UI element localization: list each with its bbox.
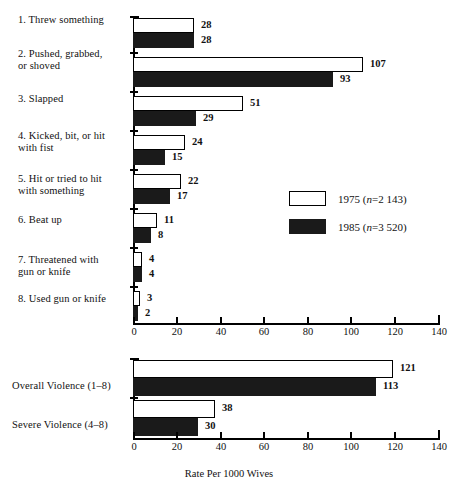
chart-panel-summary-indices: Overall Violence (1–8) Severe Violence (… [0, 352, 458, 493]
legend-label-1985: 1985 (n=3 520) [338, 221, 407, 233]
x-tick-0-bottom [133, 432, 135, 440]
x-tick-label-120-bottom: 120 [387, 441, 403, 452]
legend: 1975 (n=2 143) 1985 (n=3 520) [0, 0, 458, 345]
bar-value-1975-overall: 121 [400, 362, 416, 373]
x-tick-60-bottom [263, 432, 265, 438]
x-tick-80-bottom [307, 432, 309, 438]
x-tick-label-100-bottom: 100 [343, 441, 359, 452]
figure-violence-rates: 1. Threw something 2. Pushed, grabbed, o… [0, 0, 458, 493]
x-tick-100-bottom [350, 432, 352, 438]
bar-value-1985-overall: 113 [383, 380, 398, 391]
x-tick-label-60-bottom: 60 [259, 441, 270, 452]
summary-label-severe-violence: Severe Violence (4–8) [12, 419, 132, 431]
y-axis-tick-summary-1 [130, 397, 138, 399]
x-tick-label-40-bottom: 40 [216, 441, 227, 452]
x-tick-120-bottom [394, 432, 396, 438]
legend-n-1975: 2 143 [378, 193, 403, 205]
summary-label-overall-violence: Overall Violence (1–8) [12, 380, 132, 392]
legend-year-1985: 1985 [338, 221, 360, 233]
plot-area-bottom: 121 113 38 30 0 20 40 60 80 100 120 [133, 358, 443, 448]
legend-year-1975: 1975 [338, 193, 360, 205]
bar-1985-overall [133, 378, 376, 396]
legend-swatch-1985 [289, 219, 326, 234]
x-tick-label-140-bottom: 140 [431, 441, 447, 452]
legend-row-1975: 1975 (n=2 143) [289, 191, 407, 206]
bar-1975-severe [133, 400, 215, 418]
x-tick-label-80-bottom: 80 [303, 441, 314, 452]
bar-1975-overall [133, 360, 393, 378]
x-tick-140-bottom [438, 430, 440, 438]
bar-value-1975-severe: 38 [222, 402, 233, 413]
x-axis-title: Rate Per 1000 Wives [0, 468, 458, 480]
bar-value-1985-severe: 30 [205, 420, 216, 431]
x-axis-line-bottom [133, 438, 440, 440]
legend-swatch-1975 [289, 191, 326, 206]
x-tick-40-bottom [220, 432, 222, 438]
legend-n-1985: 3 520 [378, 221, 403, 233]
legend-row-1985: 1985 (n=3 520) [289, 219, 407, 234]
x-tick-20-bottom [176, 432, 178, 438]
chart-panel-individual-acts: 1. Threw something 2. Pushed, grabbed, o… [0, 0, 458, 345]
x-tick-label-0-bottom: 0 [131, 441, 136, 452]
x-tick-label-20-bottom: 20 [172, 441, 183, 452]
legend-label-1975: 1975 (n=2 143) [338, 193, 407, 205]
bar-1985-severe [133, 418, 198, 436]
